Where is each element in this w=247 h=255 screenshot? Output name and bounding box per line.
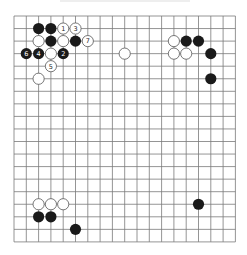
white-stone: 3 [70,23,81,34]
black-stone [45,23,56,34]
black-stone [193,36,204,47]
move-number-label: 6 [24,50,28,58]
white-stone [58,199,69,210]
black-stone [33,23,44,34]
black-stone [70,36,81,47]
black-stone: 4 [33,48,44,59]
go-board[interactable]: 1376425 [0,0,247,255]
white-stone [33,73,44,84]
white-stone [119,48,130,59]
white-stone: 7 [82,36,93,47]
move-number-label: 5 [49,63,53,71]
move-number-label: 1 [61,25,65,33]
black-stone: 2 [58,48,69,59]
white-stone [33,199,44,210]
move-number-label: 7 [86,37,90,45]
black-stone: 6 [21,48,32,59]
black-stone [70,224,81,235]
black-stone [205,48,216,59]
move-number-label: 3 [73,25,77,33]
black-stone [45,36,56,47]
black-stone [193,199,204,210]
white-stone [45,199,56,210]
black-stone [45,211,56,222]
black-stone [181,36,192,47]
white-stone [58,36,69,47]
move-number-label: 2 [61,50,65,58]
white-stone [181,48,192,59]
white-stone [168,48,179,59]
black-stone [205,73,216,84]
move-number-label: 4 [37,50,41,58]
white-stone [45,48,56,59]
white-stone [33,36,44,47]
white-stone: 1 [58,23,69,34]
white-stone [168,36,179,47]
white-stone: 5 [45,61,56,72]
black-stone [33,211,44,222]
